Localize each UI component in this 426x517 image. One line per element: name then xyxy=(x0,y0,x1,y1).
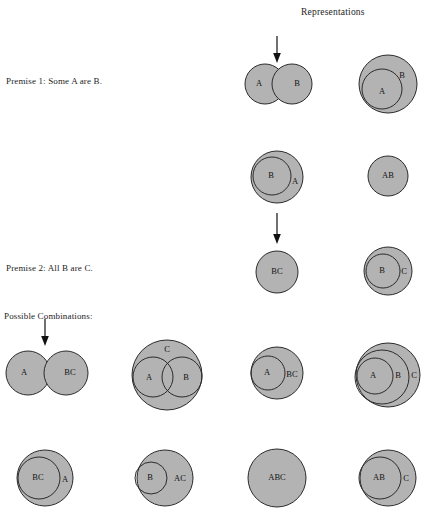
circle-label: ABC xyxy=(268,472,286,482)
combo-a-inside-b-inside-c: A B C xyxy=(355,343,420,407)
combo-abc-identical: ABC xyxy=(248,449,306,507)
circle-label: AC xyxy=(174,473,186,483)
circle-label: A xyxy=(264,367,271,377)
premise-2-label: Premise 2: All B are C. xyxy=(6,263,93,273)
combo-b-inside-ac: B AC xyxy=(135,450,193,506)
representations-heading: Representations xyxy=(301,7,365,17)
circle-label: A xyxy=(256,78,263,88)
venn-a-overlap-b: A B xyxy=(245,64,312,104)
circle-label: A xyxy=(292,176,299,186)
arrow-to-representations xyxy=(273,36,281,63)
possible-combinations-label: Possible Combinations: xyxy=(4,311,93,321)
premise-1-label: Premise 1: Some A are B. xyxy=(6,76,102,86)
combo-bc-inside-a: BC A xyxy=(17,450,73,506)
venn-b-inside-a: B A xyxy=(251,151,303,203)
venn-b-inside-c: B C xyxy=(364,247,412,295)
arrow-to-possible-combinations xyxy=(41,319,49,346)
circle-label: BC xyxy=(271,266,283,276)
combo-a-overlap-b-inside-c: C A B xyxy=(132,340,202,410)
circle-label: B xyxy=(395,370,401,380)
circle-label: A xyxy=(370,370,377,380)
circle-label: BC xyxy=(32,472,44,482)
combo-ab-inside-c: AB C xyxy=(359,450,416,506)
circle-label: B xyxy=(399,70,405,80)
circle-label: BC xyxy=(286,369,298,379)
circle-label: B xyxy=(268,170,274,180)
circle-label: B xyxy=(183,372,189,382)
circle-label: A xyxy=(62,474,69,484)
circle-label: A xyxy=(21,367,28,377)
circle-label: C xyxy=(403,473,409,483)
venn-bc-identical: BC xyxy=(256,251,298,293)
euler-diagram-figure: Representations Premise 1: Some A are B.… xyxy=(0,0,426,517)
arrow-premise1-to-premise2 xyxy=(273,213,281,244)
circle-label: C xyxy=(164,344,170,354)
venn-ab-identical: AB xyxy=(368,156,408,196)
circle-label: AB xyxy=(382,170,394,180)
circle-label: BC xyxy=(64,367,76,377)
circle-label: A xyxy=(379,86,386,96)
combo-a-inside-bc: A BC xyxy=(251,347,303,399)
venn-a-inside-b: B A xyxy=(359,55,417,113)
circle-label: C xyxy=(401,266,407,276)
circle-label: B xyxy=(294,78,300,88)
circle-label: A xyxy=(146,372,153,382)
circle-label: B xyxy=(147,472,153,482)
circle-label: B xyxy=(379,265,385,275)
circle-label: AB xyxy=(373,472,385,482)
circle-label: C xyxy=(411,370,417,380)
combo-a-overlap-bc: A BC xyxy=(6,351,88,395)
